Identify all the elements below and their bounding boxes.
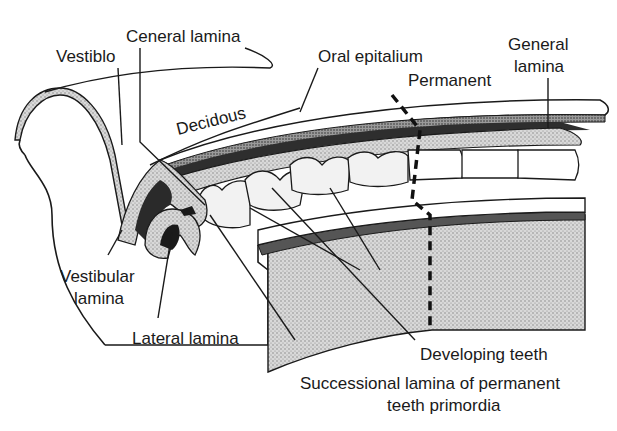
label-successional-lamina-line2: teeth primordia <box>387 396 501 415</box>
label-oral-epitalium: Oral epitalium <box>318 47 423 66</box>
label-permanent: Permanent <box>408 71 491 90</box>
label-vestibular-lamina-line2: lamina <box>74 289 125 308</box>
label-successional-lamina-line1: Successional lamina of permanent <box>300 374 560 393</box>
label-vestibular-lamina-line1: Vestibular <box>60 267 135 286</box>
lip-fold <box>15 88 128 225</box>
label-decidous: Decidous <box>174 103 247 139</box>
label-vestiblo: Vestiblo <box>56 47 116 66</box>
label-lateral-lamina: Lateral lamina <box>132 329 239 348</box>
dental-lamina-diagram: Vestiblo Ceneral lamina Oral epitalium P… <box>0 0 617 431</box>
label-general-lamina-line2: lamina <box>514 57 565 76</box>
label-developing-teeth: Developing teeth <box>420 345 548 364</box>
label-ceneral-lamina: Ceneral lamina <box>126 27 241 46</box>
label-general-lamina-line1: General <box>508 35 568 54</box>
